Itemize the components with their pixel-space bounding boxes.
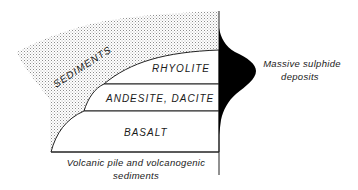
volcanic-stratigraphy-diagram: SEDIMENTS RHYOLITE ANDESITE, DACITE BASA… — [0, 0, 358, 190]
andesite-dacite-label: ANDESITE, DACITE — [105, 93, 214, 104]
rhyolite-label: RHYOLITE — [152, 63, 210, 74]
basalt-label: BASALT — [124, 127, 168, 138]
massive-sulphide-deposit-shape — [219, 28, 256, 135]
base-label-line1: Volcanic pile and volcanogenic — [67, 157, 206, 168]
deposit-label-line2: deposits — [281, 71, 319, 82]
base-label-line2: sediments — [113, 170, 159, 181]
deposit-label-line1: Massive sulphide — [263, 58, 341, 69]
